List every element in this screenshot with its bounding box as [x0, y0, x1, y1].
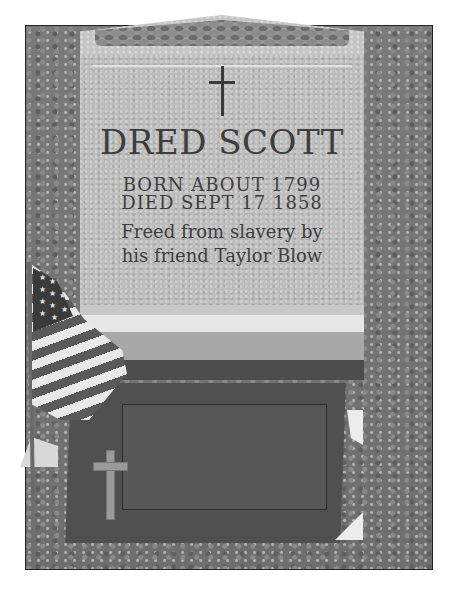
- coins-on-headstone: [95, 20, 349, 46]
- small-cross-icon: [93, 450, 128, 520]
- ground-plaque-text-area: [122, 404, 327, 510]
- star-icon: ★: [49, 302, 56, 310]
- headstone-inscription-line-2: his friend Taylor Blow: [80, 244, 364, 268]
- star-icon: ★: [39, 274, 46, 282]
- headstone-inscription-line-1: Freed from slavery by: [80, 220, 364, 244]
- star-icon: ★: [39, 298, 46, 306]
- star-icon: ★: [39, 310, 46, 318]
- star-icon: ★: [39, 286, 46, 294]
- headstone-base: [80, 305, 364, 360]
- star-icon: ★: [61, 306, 68, 314]
- star-icon: ★: [49, 290, 56, 298]
- cross-icon: [209, 66, 235, 116]
- star-icon: ★: [51, 314, 58, 322]
- headstone-died: DIED SEPT 17 1858: [80, 193, 364, 212]
- headstone-name: DRED SCOTT: [80, 122, 364, 162]
